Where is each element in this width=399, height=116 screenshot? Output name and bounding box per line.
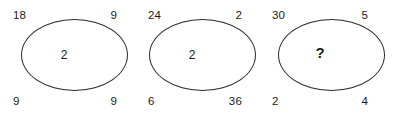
group-3-top-left-number: 30: [272, 9, 285, 21]
ellipse-group-2: 24 2 6 36 2: [128, 0, 256, 116]
group-1-bottom-left-number: 9: [13, 95, 20, 107]
ellipse-group-1: 18 9 9 9 2: [0, 0, 128, 116]
group-3-top-right-number: 5: [361, 9, 368, 21]
group-2-top-right-number: 2: [235, 9, 242, 21]
group-2-center-number: 2: [128, 48, 256, 62]
group-3-bottom-right-number: 4: [361, 95, 368, 107]
puzzle-canvas: 18 9 9 9 2 24 2 6 36 2 30 5 2 4 ?: [0, 0, 399, 116]
group-2-bottom-right-number: 36: [229, 95, 242, 107]
group-2-top-left-number: 24: [148, 9, 161, 21]
group-3-bottom-left-number: 2: [272, 95, 279, 107]
ellipse-group-3: 30 5 2 4 ?: [256, 0, 384, 116]
group-3-center-unknown: ?: [256, 46, 384, 60]
group-1-top-left-number: 18: [13, 9, 26, 21]
group-1-top-right-number: 9: [110, 9, 117, 21]
group-1-bottom-right-number: 9: [110, 95, 117, 107]
group-1-center-number: 2: [0, 48, 128, 62]
group-2-bottom-left-number: 6: [148, 95, 155, 107]
